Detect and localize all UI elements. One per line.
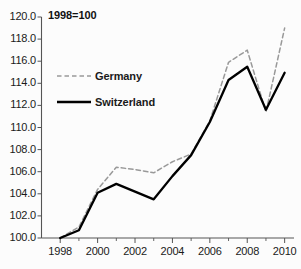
y-tick-label: 110.0 [0,121,36,133]
legend-label-germany: Germany [95,70,142,82]
x-tick-label: 1998 [43,245,77,257]
y-tick-label: 120.0 [0,10,36,22]
y-tick-label: 112.0 [0,98,36,110]
y-tick-label: 118.0 [0,32,36,44]
y-tick-label: 114.0 [0,76,36,88]
chart-container: 1998=100 Germany Switzerland 100.0102.01… [0,0,301,269]
x-tick-label: 2004 [155,245,189,257]
series-line-switzerland [60,67,284,238]
x-tick-label: 2006 [193,245,227,257]
line-chart-plot [0,0,301,269]
y-tick-label: 102.0 [0,209,36,221]
legend-label-switzerland: Switzerland [95,96,155,108]
x-tick-label: 2010 [268,245,301,257]
y-tick-label: 104.0 [0,187,36,199]
chart-annotation-note: 1998=100 [48,9,96,21]
x-tick-label: 2000 [81,245,115,257]
y-tick-label: 106.0 [0,165,36,177]
x-tick-label: 2008 [230,245,264,257]
x-tick-label: 2002 [118,245,152,257]
y-tick-label: 108.0 [0,143,36,155]
y-tick-label: 100.0 [0,231,36,243]
y-tick-label: 116.0 [0,54,36,66]
series-line-germany [60,28,284,238]
